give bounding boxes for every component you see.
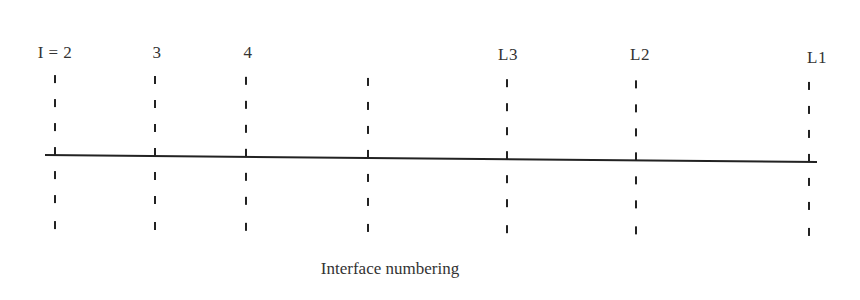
interface-label: I = 2: [38, 44, 73, 62]
dash-segment: [506, 103, 508, 111]
dash-segment: [635, 128, 637, 136]
dash-segment: [367, 126, 369, 134]
dash-segment: [635, 200, 637, 208]
dash-segment: [54, 221, 56, 229]
dash-segment: [245, 173, 247, 181]
dash-segment: [54, 171, 56, 179]
dash-segment: [245, 197, 247, 205]
horizontal-axis-line: [45, 155, 817, 162]
dash-segment: [635, 80, 637, 88]
dash-segment: [154, 148, 156, 156]
dash-segment: [808, 82, 810, 90]
dash-segment: [154, 172, 156, 180]
dash-segment: [635, 104, 637, 112]
dash-segment: [635, 226, 637, 234]
interface-numbering-diagram: I = 234L3L2L1 Interface numbering: [0, 0, 860, 300]
dash-segment: [808, 178, 810, 186]
dash-segment: [245, 125, 247, 133]
dash-segment: [808, 130, 810, 138]
dash-segment: [154, 196, 156, 204]
dash-segment: [154, 222, 156, 230]
dash-segment: [154, 124, 156, 132]
dash-segment: [367, 224, 369, 232]
interface-label: L3: [498, 46, 518, 64]
dash-segment: [635, 176, 637, 184]
interface-dashed-line: [245, 77, 247, 231]
interface-dashed-line: [54, 75, 56, 229]
interface-label: 4: [244, 44, 253, 62]
interface-label: L1: [807, 49, 827, 67]
dash-segment: [367, 198, 369, 206]
dash-segment: [245, 223, 247, 231]
diagram-caption: Interface numbering: [321, 259, 459, 279]
dash-segment: [808, 154, 810, 162]
interface-dashed-line: [506, 79, 508, 233]
dash-segment: [506, 199, 508, 207]
dash-segment: [54, 147, 56, 155]
interface-dashed-line: [154, 76, 156, 230]
dash-segment: [245, 101, 247, 109]
interface-dashed-line: [635, 80, 637, 234]
dash-segment: [54, 123, 56, 131]
dash-segment: [635, 152, 637, 160]
dash-segment: [367, 150, 369, 158]
dash-segment: [808, 106, 810, 114]
interface-dashed-line: [367, 78, 369, 232]
dash-segment: [367, 102, 369, 110]
dash-segment: [154, 76, 156, 84]
dash-segment: [245, 77, 247, 85]
dash-segment: [54, 99, 56, 107]
dash-segment: [808, 202, 810, 210]
dash-segment: [506, 175, 508, 183]
dash-segment: [367, 174, 369, 182]
diagram-canvas: [0, 0, 860, 300]
dash-segment: [154, 100, 156, 108]
dash-segment: [506, 79, 508, 87]
dash-segment: [808, 228, 810, 236]
dash-segment: [54, 75, 56, 83]
interface-dashed-line: [808, 82, 810, 236]
dash-segment: [245, 149, 247, 157]
dash-segment: [367, 78, 369, 86]
dash-segment: [506, 225, 508, 233]
dash-segment: [54, 195, 56, 203]
interface-label: L2: [630, 46, 650, 64]
dash-segment: [506, 127, 508, 135]
interface-label: 3: [153, 44, 162, 62]
dash-segment: [506, 151, 508, 159]
